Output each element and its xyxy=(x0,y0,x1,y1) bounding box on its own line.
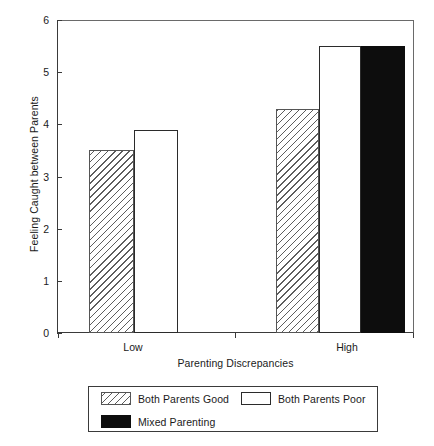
chart-figure: Feeling Caught between Parents 6543210 L… xyxy=(0,0,434,446)
legend-entry-both-parents-good: Both Parents Good xyxy=(101,392,229,405)
legend-row: Both Parents Good Both Parents Poor xyxy=(89,387,377,410)
bar xyxy=(276,109,319,333)
legend-row: Mixed Parenting xyxy=(89,410,377,433)
bar xyxy=(361,46,405,333)
y-tick-label: 3 xyxy=(9,171,49,183)
bar xyxy=(134,130,178,333)
y-tick-label: 6 xyxy=(9,14,49,26)
legend-entry-both-parents-poor: Both Parents Poor xyxy=(241,392,366,405)
x-tick-mark xyxy=(235,333,236,338)
legend-label: Mixed Parenting xyxy=(138,416,215,428)
legend-label: Both Parents Good xyxy=(138,393,229,405)
y-tick-label: 1 xyxy=(9,275,49,287)
bar xyxy=(319,46,361,333)
y-tick-label: 4 xyxy=(9,118,49,130)
x-tick-label: High xyxy=(307,341,387,353)
y-tick-label: 0 xyxy=(9,327,49,339)
legend-entry-mixed-parenting: Mixed Parenting xyxy=(101,415,215,428)
bar xyxy=(89,150,134,333)
x-tick-mark xyxy=(58,333,59,338)
legend-swatch-white-icon xyxy=(241,392,271,405)
y-tick-label: 2 xyxy=(9,223,49,235)
x-tick-label: Low xyxy=(93,341,173,353)
bar-layer xyxy=(57,20,414,333)
y-tick-label: 5 xyxy=(9,66,49,78)
legend-swatch-black-icon xyxy=(101,415,131,428)
legend-label: Both Parents Poor xyxy=(278,393,366,405)
x-tick-mark xyxy=(413,333,414,338)
legend-swatch-hatched-icon xyxy=(101,392,131,405)
x-axis-title: Parenting Discrepancies xyxy=(57,357,414,369)
legend: Both Parents Good Both Parents Poor Mixe… xyxy=(88,386,378,432)
